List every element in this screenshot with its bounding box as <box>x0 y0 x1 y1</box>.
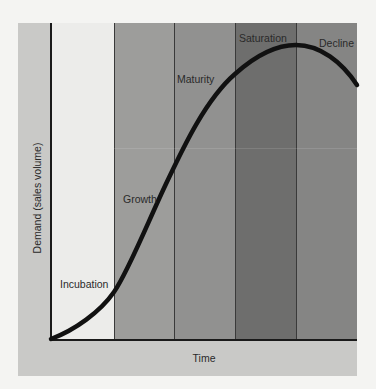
x-axis-label: Time <box>193 352 216 364</box>
label-saturation: Saturation <box>239 32 287 44</box>
label-maturity: Maturity <box>177 73 214 85</box>
label-incubation: Incubation <box>60 278 108 290</box>
horizontal-gridline <box>114 148 357 149</box>
label-decline: Decline <box>319 37 354 49</box>
phase-growth <box>114 23 174 340</box>
y-axis-label: Demand (sales volume) <box>31 143 43 254</box>
x-axis-line <box>50 339 357 341</box>
label-growth: Growth <box>123 193 157 205</box>
phase-maturity <box>174 23 235 340</box>
phase-decline <box>296 23 357 340</box>
y-axis-line <box>50 23 52 341</box>
phase-saturation <box>235 23 296 340</box>
phase-incubation <box>51 23 114 340</box>
